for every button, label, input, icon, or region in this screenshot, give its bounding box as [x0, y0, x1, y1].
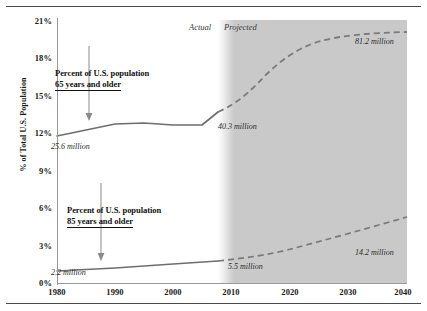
y-tick-9: 9%: [4, 166, 52, 176]
plot-area: [57, 20, 407, 283]
data-label-85plus-1980: 2.2 million: [51, 268, 86, 277]
x-tick-2040: 2040: [383, 287, 423, 297]
x-tick-2030: 2030: [328, 287, 368, 297]
y-tick-18: 18%: [4, 53, 52, 63]
x-tick-2000: 2000: [153, 287, 193, 297]
y-tick-3: 3%: [4, 241, 52, 251]
annotation-65-plus-line2: 65 years and older: [55, 79, 121, 91]
y-tick-labels: 21% 18% 15% 12% 9% 6% 3% 0%: [0, 0, 52, 311]
top-rule: [6, 6, 421, 7]
annotation-85-plus-line1: Percent of U.S. population: [67, 205, 161, 216]
region-label-actual: Actual: [189, 22, 211, 32]
y-tick-15: 15%: [4, 91, 52, 101]
y-axis-line: [57, 18, 58, 285]
data-label-65plus-2040: 81.2 million: [355, 37, 394, 46]
x-axis-line: [57, 283, 407, 284]
data-label-65plus-2010: 40.3 million: [218, 122, 257, 131]
x-tick-1990: 1990: [95, 287, 135, 297]
annotation-85-plus-line2: 85 years and older: [67, 216, 133, 228]
data-label-85plus-2040: 14.2 million: [355, 248, 394, 257]
x-tick-2010: 2010: [211, 287, 251, 297]
data-label-85plus-2010: 5.5 million: [228, 262, 263, 271]
y-tick-21: 21%: [4, 16, 52, 26]
bottom-rule: [6, 303, 421, 304]
chart-figure: % of Total U.S. Population 21% 18% 15% 1…: [0, 0, 427, 311]
x-tick-1980: 1980: [37, 287, 77, 297]
series-65plus-actual-path: [57, 112, 218, 136]
y-tick-12: 12%: [4, 128, 52, 138]
region-label-projected: Projected: [224, 22, 257, 32]
annotation-65-plus: Percent of U.S. population 65 years and …: [55, 68, 149, 91]
annotation-65-plus-line1: Percent of U.S. population: [55, 68, 149, 79]
chart-lines: [57, 20, 407, 283]
y-tick-6: 6%: [4, 203, 52, 213]
data-label-65plus-1980: 25.6 million: [51, 142, 90, 151]
x-tick-2020: 2020: [270, 287, 310, 297]
annotation-85-plus: Percent of U.S. population 85 years and …: [67, 205, 161, 228]
